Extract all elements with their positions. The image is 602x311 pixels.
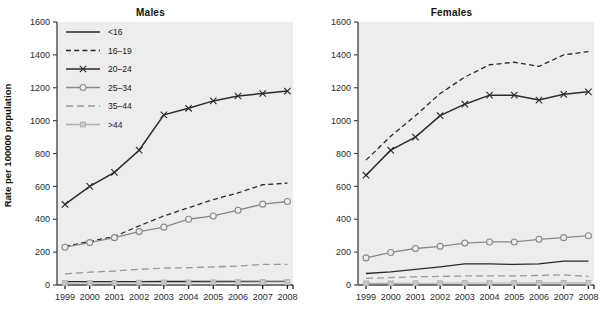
x-axis-tick-label: 1999 [55, 292, 75, 302]
series-marker->44 [364, 281, 369, 286]
series-marker->44 [462, 281, 467, 286]
y-axis-tick-label: 1600 [30, 17, 50, 27]
x-axis-tick-label: 1999 [356, 292, 376, 302]
y-axis-tick-label: 1000 [30, 116, 50, 126]
series-marker->44 [438, 281, 443, 286]
panel-females: Females 02004006008001000120014001600199… [301, 0, 602, 311]
x-axis-tick-label: 2003 [455, 292, 475, 302]
x-axis-tick-label: 2006 [228, 292, 248, 302]
y-axis-tick-label: 400 [336, 214, 351, 224]
plot-area [57, 22, 293, 285]
legend-label-20–24: 20–24 [108, 64, 132, 74]
legend-label-16–19: 16–19 [108, 46, 132, 56]
y-axis-tick-label: 800 [35, 149, 50, 159]
y-axis-tick-label: 200 [35, 247, 50, 257]
series-marker->44 [487, 281, 492, 286]
x-axis-tick-label: 2004 [179, 292, 199, 302]
series-marker-25–34 [235, 207, 241, 213]
y-axis-tick-label: 400 [35, 214, 50, 224]
series-marker-25–34 [136, 229, 142, 235]
y-axis-tick-label: 1000 [331, 116, 351, 126]
legend-marker->44 [81, 122, 86, 127]
legend-label-<16: <16 [108, 27, 123, 37]
plot-svg-males: 0200400600800100012001400160019992000200… [0, 0, 301, 311]
x-axis-tick-label: 2000 [80, 292, 100, 302]
x-axis-tick-label: 2002 [129, 292, 149, 302]
y-axis-tick-label: 1600 [331, 17, 351, 27]
series-marker-25–34 [186, 216, 192, 222]
x-axis-tick-label: 2005 [203, 292, 223, 302]
y-axis-tick-label: 1200 [331, 83, 351, 93]
series-marker->44 [260, 280, 265, 285]
series-marker-25–34 [462, 240, 468, 246]
y-axis-tick-label: 200 [336, 247, 351, 257]
series-marker-25–34 [511, 239, 517, 245]
series-marker->44 [512, 281, 517, 286]
y-axis-tick-label: 600 [35, 182, 50, 192]
x-axis-tick-label: 2000 [381, 292, 401, 302]
x-axis-tick-label: 2005 [504, 292, 524, 302]
series-marker-25–34 [210, 213, 216, 219]
y-axis-tick-label: 1200 [30, 83, 50, 93]
series-marker-25–34 [284, 198, 290, 204]
plot-svg-females: 0200400600800100012001400160019992000200… [301, 0, 602, 311]
series-marker-25–34 [388, 249, 394, 255]
y-axis-tick-label: 0 [45, 280, 50, 290]
x-axis-tick-label: 2003 [154, 292, 174, 302]
series-marker-25–34 [585, 233, 591, 239]
series-marker-25–34 [161, 224, 167, 230]
series-marker-25–34 [536, 236, 542, 242]
series-marker->44 [561, 280, 566, 285]
series-marker->44 [186, 280, 191, 285]
series-marker-25–34 [62, 244, 68, 250]
y-axis-tick-label: 800 [336, 149, 351, 159]
series-marker->44 [537, 280, 542, 285]
series-marker-25–34 [561, 235, 567, 241]
series-marker->44 [211, 280, 216, 285]
x-axis-tick-label: 2004 [480, 292, 500, 302]
x-axis-tick-label: 2008 [277, 292, 297, 302]
series-marker->44 [63, 281, 68, 286]
legend-label-35–44: 35–44 [108, 101, 132, 111]
series-marker->44 [137, 280, 142, 285]
series-marker-25–34 [487, 239, 493, 245]
series-marker-25–34 [363, 255, 369, 261]
series-marker->44 [87, 281, 92, 286]
legend-marker-25–34 [80, 85, 86, 91]
x-axis-tick-label: 2002 [430, 292, 450, 302]
series-marker-25–34 [260, 201, 266, 207]
y-axis-tick-label: 600 [336, 182, 351, 192]
y-axis-tick-label: 0 [346, 280, 351, 290]
series-marker->44 [586, 280, 591, 285]
legend-label->44: >44 [108, 120, 123, 130]
series-marker-25–34 [111, 235, 117, 241]
x-axis-tick-label: 2006 [529, 292, 549, 302]
y-axis-tick-label: 1400 [331, 50, 351, 60]
x-axis-tick-label: 2008 [578, 292, 598, 302]
series-marker->44 [413, 281, 418, 286]
series-marker->44 [236, 280, 241, 285]
series-marker->44 [112, 280, 117, 285]
x-axis-tick-label: 2001 [405, 292, 425, 302]
legend-label-25–34: 25–34 [108, 83, 132, 93]
x-axis-tick-label: 2007 [253, 292, 273, 302]
x-axis-tick-label: 2001 [104, 292, 124, 302]
series-marker->44 [388, 281, 393, 286]
series-marker->44 [285, 280, 290, 285]
series-marker-25–34 [412, 246, 418, 252]
y-axis-tick-label: 1400 [30, 50, 50, 60]
series-marker-25–34 [437, 243, 443, 249]
series-marker-25–34 [87, 240, 93, 246]
figure-two-panel-line-chart: Rate per 100000 population Males 0200400… [0, 0, 602, 311]
panel-males: Rate per 100000 population Males 0200400… [0, 0, 301, 311]
x-axis-tick-label: 2007 [554, 292, 574, 302]
series-marker->44 [161, 280, 166, 285]
